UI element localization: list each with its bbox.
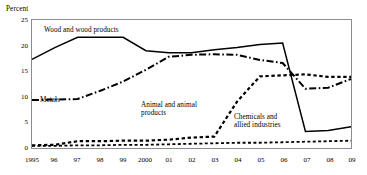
series-line-1 [32,54,351,100]
series-line-0 [32,37,351,131]
series-paths [32,37,351,146]
plot-frame [32,20,352,149]
chart-plot-area [0,0,367,175]
chart-container: Percent 25 20 15 10 5 0 1995 96 97 98 99… [0,0,367,175]
